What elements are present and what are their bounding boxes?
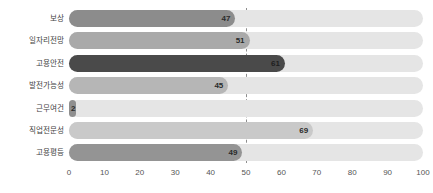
bar-value-label: 45 [214, 77, 223, 94]
x-tick-label: 10 [100, 168, 109, 177]
category-label: 직업전문성 [0, 126, 64, 135]
category-label: 고용안전 [0, 59, 64, 68]
bar-fill[interactable] [69, 32, 250, 49]
bar-fill[interactable] [69, 144, 242, 161]
x-tick-label: 50 [242, 168, 251, 177]
bar-fill[interactable] [69, 77, 228, 94]
bar-row: 69 [69, 122, 423, 139]
bar-chart: 보상일자리전망고용안전발전가능성근무여건직업전문성고용평등 4751614526… [0, 0, 433, 193]
category-label: 일자리전망 [0, 36, 64, 45]
bar-value-label: 49 [229, 144, 238, 161]
x-tick-label: 30 [171, 168, 180, 177]
x-tick-label: 90 [383, 168, 392, 177]
category-label-column: 보상일자리전망고용안전발전가능성근무여건직업전문성고용평등 [0, 10, 64, 165]
x-tick-label: 70 [312, 168, 321, 177]
bar-value-label: 61 [271, 55, 280, 72]
x-tick-label: 20 [135, 168, 144, 177]
bar-value-label: 2 [71, 100, 75, 117]
category-label: 고용평등 [0, 148, 64, 157]
bar-fill[interactable] [69, 122, 313, 139]
x-tick-label: 100 [416, 168, 429, 177]
x-tick-label: 0 [67, 168, 71, 177]
bar-row: 47 [69, 10, 423, 27]
x-tick-label: 60 [277, 168, 286, 177]
category-label: 근무여건 [0, 104, 64, 113]
plot-area: 4751614526949 [69, 10, 423, 165]
bar-row: 51 [69, 32, 423, 49]
x-axis: 0102030405060708090100 [69, 168, 423, 184]
bar-fill[interactable] [69, 55, 285, 72]
bar-value-label: 51 [236, 32, 245, 49]
category-label: 보상 [0, 14, 64, 23]
bar-row: 2 [69, 100, 423, 117]
x-tick-label: 80 [348, 168, 357, 177]
bar-track [69, 100, 423, 117]
bar-value-label: 47 [221, 10, 230, 27]
category-label: 발전가능성 [0, 81, 64, 90]
bar-row: 49 [69, 144, 423, 161]
bar-fill[interactable] [69, 10, 235, 27]
bar-row: 61 [69, 55, 423, 72]
bar-value-label: 69 [299, 122, 308, 139]
x-tick-label: 40 [206, 168, 215, 177]
bar-row: 45 [69, 77, 423, 94]
